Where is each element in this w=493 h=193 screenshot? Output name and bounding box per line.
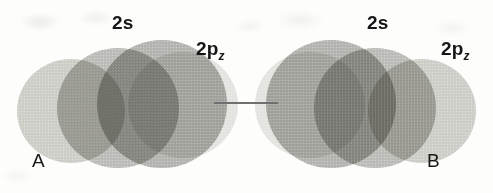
atom-b-2pz-label: 2pz — [441, 38, 470, 63]
atom-b-2pz-label-text: 2p — [441, 38, 464, 59]
atom-b-label: B — [427, 150, 440, 172]
atom-b-2pz-subscript: z — [464, 49, 470, 63]
atom-a-label: A — [32, 150, 45, 172]
atom-a-2s-label: 2s — [112, 12, 134, 34]
orbital-overlap-diagram: 2s 2pz A 2s 2pz B — [0, 0, 493, 193]
atom-b-2s-label: 2s — [367, 12, 389, 34]
halftone-texture — [128, 52, 238, 158]
atom-b-group: 2s 2pz B — [247, 0, 493, 193]
atom-a-2pz-label-text: 2p — [196, 38, 219, 59]
atom-a-2pz-rim — [128, 52, 238, 158]
atom-a-2pz-subscript: z — [219, 49, 225, 63]
atom-a-group: 2s 2pz A — [0, 0, 246, 193]
atom-b-2pz-rim — [255, 52, 365, 158]
atom-a-2pz-label: 2pz — [196, 38, 225, 63]
halftone-texture — [255, 52, 365, 158]
bond-leader-line — [214, 102, 278, 104]
